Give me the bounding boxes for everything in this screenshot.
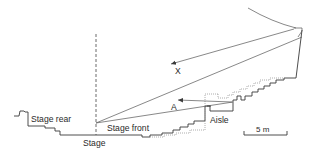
label-stage-rear: Stage rear — [31, 114, 71, 124]
reflector-corner — [294, 28, 302, 37]
label-a: A — [171, 102, 177, 112]
upper-stepped-seating — [233, 30, 302, 100]
reflector-ceiling-curve — [248, 8, 296, 28]
label-aisle: Aisle — [210, 115, 229, 125]
label-scale: 5 m — [256, 125, 270, 134]
theatre-section-diagram: Stage rear Stage front Stage Aisle X A 5… — [0, 0, 311, 157]
label-stage: Stage — [83, 138, 106, 148]
upper-dotted-rake — [218, 78, 284, 98]
label-x: X — [175, 66, 181, 76]
label-stage-front: Stage front — [107, 123, 150, 133]
sightline-x-arrow — [171, 29, 294, 64]
sightline-upper — [96, 37, 302, 123]
